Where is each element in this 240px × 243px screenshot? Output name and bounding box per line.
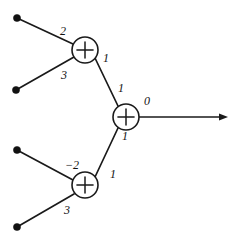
input-terminals-group bbox=[12, 14, 20, 230]
diagram-canvas: 2311011−23 bbox=[0, 0, 240, 243]
label-weight-1-lower: 1 bbox=[122, 130, 128, 142]
label-weight-0: 0 bbox=[144, 95, 150, 107]
terminal-dot-input-4 bbox=[13, 223, 20, 230]
node-adder-center[interactable] bbox=[113, 104, 139, 130]
diagram-svg bbox=[0, 0, 240, 243]
node-adder-top[interactable] bbox=[72, 37, 98, 63]
terminal-dot-input-1 bbox=[13, 14, 20, 21]
terminal-dot-input-3 bbox=[13, 146, 20, 153]
node-adder-bottom[interactable] bbox=[72, 172, 98, 198]
label-weight-2: 2 bbox=[60, 25, 66, 37]
output-edge-group bbox=[139, 113, 228, 120]
terminal-dot-input-2 bbox=[12, 86, 19, 93]
edge-addertop-addercenter bbox=[95, 58, 118, 106]
label-weight-neg2: −2 bbox=[65, 159, 79, 171]
label-weight-1-upper: 1 bbox=[118, 82, 124, 94]
label-weight-3-bot: 3 bbox=[64, 204, 70, 216]
output-arrow-icon bbox=[219, 113, 228, 120]
label-weight-1-top: 1 bbox=[103, 52, 109, 64]
label-weight-1-bot: 1 bbox=[110, 168, 116, 180]
edges-group bbox=[16, 18, 118, 227]
label-weight-3-top: 3 bbox=[61, 69, 67, 81]
